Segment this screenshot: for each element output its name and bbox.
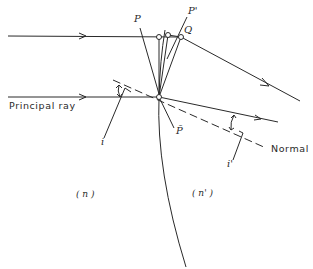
- label-P: P: [134, 14, 141, 24]
- i-leader-line: [104, 88, 125, 138]
- i-prime-leader-line: [233, 133, 243, 160]
- point-on-P-prime: [166, 33, 171, 38]
- diagram-svg: [0, 0, 313, 269]
- upper-incident-ray: [8, 36, 181, 37]
- normal-line: [113, 80, 266, 148]
- i-leader-tick: [125, 88, 131, 92]
- P-bar-line: [159, 97, 174, 128]
- point-Q: [179, 35, 184, 40]
- label-i-prime: i': [227, 159, 233, 169]
- point-on-surface-top: [157, 35, 162, 40]
- label-i: i: [101, 137, 104, 147]
- upper-refracted-ray: [181, 37, 300, 101]
- vertex-point: [157, 95, 162, 100]
- i-prime-leader-tick: [239, 131, 243, 133]
- label-P-prime: P': [188, 6, 197, 16]
- diagram-canvas: P P' Q P̄ Principal ray Normal i i' ( n …: [0, 0, 313, 269]
- label-Q: Q: [184, 25, 192, 35]
- angle-i-prime-arrow-bottom: [229, 127, 234, 130]
- label-P-bar: P̄: [176, 126, 183, 136]
- refracting-surface: [159, 30, 186, 267]
- label-normal: Normal: [271, 144, 309, 154]
- label-n-prime: ( n' ): [192, 189, 213, 198]
- label-n: ( n ): [76, 190, 95, 199]
- label-principal-ray: Principal ray: [9, 101, 76, 111]
